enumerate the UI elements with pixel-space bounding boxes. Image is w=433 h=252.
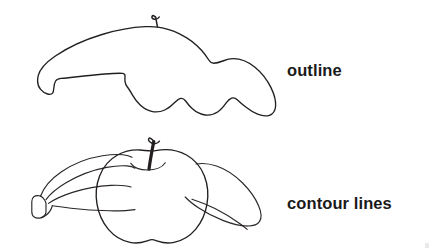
contour-figure — [32, 138, 261, 243]
banana-second-ridge-path — [49, 185, 132, 203]
outline-apple-stem-icon — [152, 16, 159, 27]
label-outline: outline — [287, 62, 342, 79]
corner-artifact — [425, 243, 429, 248]
outline-figure — [38, 16, 276, 116]
banana-lower-edge-left-path — [52, 206, 135, 211]
apple-body-path — [96, 150, 208, 243]
apple-stem-icon — [149, 138, 160, 169]
diagram-page: { "page": { "title": "Outline vs Contour… — [0, 0, 433, 252]
banana-mid-ridge-path — [46, 166, 135, 200]
label-contour-lines: contour lines — [287, 195, 392, 212]
banana-upper-edge-path — [41, 155, 132, 196]
outline-merged-silhouette-path — [38, 27, 276, 116]
banana-stem-end-icon — [32, 196, 52, 218]
diagram-canvas — [0, 0, 433, 252]
